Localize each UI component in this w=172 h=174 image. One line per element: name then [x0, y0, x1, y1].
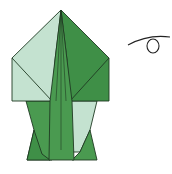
turn-over-icon [128, 36, 170, 53]
origami-diagram [0, 0, 172, 174]
origami-model [0, 0, 172, 174]
